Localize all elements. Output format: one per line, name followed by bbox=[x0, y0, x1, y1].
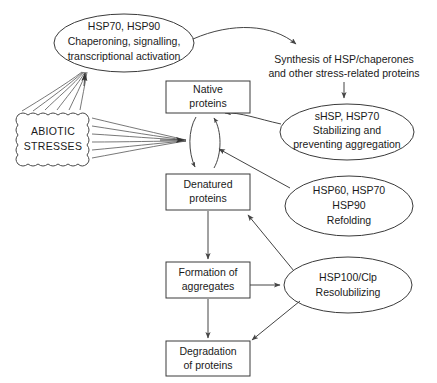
edge-equilibrium-arrows bbox=[190, 117, 220, 168]
diagram-canvas: HSP70, HSP90 Chaperoning, signalling, tr… bbox=[0, 0, 437, 383]
refolding-line-1: HSP60, HSP70 bbox=[313, 184, 386, 196]
node-native-proteins: Native proteins bbox=[166, 81, 250, 113]
abiotic-stresses-line-2: STRESSES bbox=[24, 140, 82, 152]
synthesis-line-2: and other stress-related proteins bbox=[268, 67, 419, 79]
node-abiotic-stresses: ABIOTIC STRESSES bbox=[16, 113, 89, 166]
edge-resolubilizing-to-denatured bbox=[248, 215, 294, 271]
shsp-line-2: Stabilizing and bbox=[313, 124, 381, 136]
edge-shsp-to-native bbox=[225, 113, 281, 124]
node-refolding-ellipse: HSP60, HSP70 HSP90 Refolding bbox=[285, 176, 413, 236]
degradation-proteins-line-2: of proteins bbox=[183, 359, 232, 371]
node-synthesis-text: Synthesis of HSP/chaperones and other st… bbox=[268, 53, 419, 79]
edge-stresses-to-equilibrium bbox=[92, 118, 186, 158]
resolubilizing-line-2: Resolubilizing bbox=[316, 286, 381, 298]
shsp-line-1: sHSP, HSP70 bbox=[315, 110, 380, 122]
edge-stresses-to-chaperoning bbox=[22, 72, 87, 111]
synthesis-line-1: Synthesis of HSP/chaperones bbox=[274, 53, 414, 65]
node-denatured-proteins: Denatured proteins bbox=[166, 174, 250, 210]
resolubilizing-line-1: HSP100/Clp bbox=[319, 271, 377, 283]
denatured-proteins-line-1: Denatured bbox=[183, 178, 232, 190]
node-resolubilizing-ellipse: HSP100/Clp Resolubilizing bbox=[284, 257, 412, 313]
chaperoning-line-1: HSP70, HSP90 bbox=[88, 20, 161, 32]
formation-aggregates-line-1: Formation of bbox=[179, 266, 238, 278]
degradation-proteins-line-1: Degradation bbox=[179, 345, 236, 357]
native-proteins-line-1: Native bbox=[193, 83, 223, 95]
node-formation-aggregates: Formation of aggregates bbox=[166, 262, 250, 298]
chaperoning-line-3: transcriptional activation bbox=[68, 50, 181, 62]
shsp-line-3: preventing aggregation bbox=[293, 138, 401, 150]
edge-resolubilizing-to-degradation bbox=[252, 301, 300, 340]
chaperoning-line-2: Chaperoning, signalling, bbox=[68, 35, 181, 47]
abiotic-stresses-line-1: ABIOTIC bbox=[31, 125, 75, 137]
denatured-proteins-line-2: proteins bbox=[189, 192, 226, 204]
node-chaperoning-ellipse: HSP70, HSP90 Chaperoning, signalling, tr… bbox=[54, 14, 194, 72]
native-proteins-line-2: proteins bbox=[189, 97, 226, 109]
refolding-line-3: Refolding bbox=[327, 214, 372, 226]
refolding-line-2: HSP90 bbox=[332, 199, 365, 211]
formation-aggregates-line-2: aggregates bbox=[182, 280, 235, 292]
node-degradation-proteins: Degradation of proteins bbox=[166, 341, 250, 376]
edge-chaperoning-to-synthesis bbox=[193, 28, 296, 44]
node-shsp-ellipse: sHSP, HSP70 Stabilizing and preventing a… bbox=[280, 104, 414, 160]
